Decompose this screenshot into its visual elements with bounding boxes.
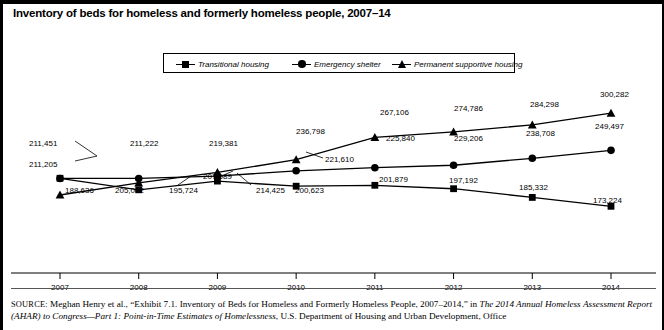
label-emergency-2011: 225,840 [386,134,415,143]
label-permanent-2011: 267,106 [380,108,409,117]
source-divider [11,288,656,289]
label-emergency-2008: 211,222 [130,139,158,148]
label-emergency-2012: 229,206 [454,134,483,143]
circle-marker-icon [292,167,300,175]
x-axis [11,273,656,279]
label-permanent-2010: 236,798 [296,127,325,136]
circle-marker-icon [450,161,458,169]
label-transitional-2007: 211,451 [29,139,57,148]
label-emergency-2013: 238,708 [526,129,555,138]
label-emergency-2007: 211,205 [29,160,57,169]
label-transitional-2011: 201,879 [379,175,408,184]
label-transitional-2009: 207,589 [203,172,232,181]
label-transitional-2012: 197,192 [449,176,478,185]
label-permanent-2007: 188,636 [65,186,94,195]
label-emergency-2010: 221,610 [325,155,354,164]
chart-plot-area: Transitional housing Emergency shelter P… [3,28,664,293]
square-marker-icon [371,182,378,189]
label-emergency-2014: 249,497 [595,122,624,131]
source-title-part1: The 2014 Annual Homeless [480,299,581,309]
label-permanent-2008: 205,062 [115,186,144,195]
title-top-rule [3,0,664,4]
label-transitional-2010: 200,623 [295,186,324,195]
source-note: SOURCE: Meghan Henry et al., “Exhibit 7.… [11,299,659,322]
square-marker-icon [529,194,536,201]
label-permanent-2012: 274,786 [454,104,483,113]
circle-marker-icon [56,175,64,183]
label-transitional-2013: 185,332 [519,183,548,192]
triangle-marker-icon [607,109,616,117]
label-permanent-2014: 300,282 [600,90,629,99]
circle-marker-icon [607,147,615,155]
circle-marker-icon [371,164,379,172]
figure-title: Inventory of beds for homeless and forme… [13,7,633,19]
label-leader-line [75,156,97,161]
label-transitional-2014: 173,224 [593,196,622,205]
square-marker-icon [450,185,457,192]
label-emergency-2009: 214,425 [256,186,285,195]
source-label: SOURCE: [11,300,48,309]
label-permanent-2009: 219,381 [209,139,238,148]
label-permanent-2013: 284,298 [530,100,559,109]
circle-marker-icon [528,154,536,162]
label-leader-line [75,141,97,156]
source-text-part2: , U.S. Department of Housing and Urban D… [276,311,506,321]
label-transitional-2008: 195,724 [169,186,198,195]
figure-container: Inventory of beds for homeless and forme… [0,0,664,330]
source-text-part1: Meghan Henry et al., “Exhibit 7.1. Inven… [48,299,480,309]
series-emergency-shelter [56,147,615,183]
